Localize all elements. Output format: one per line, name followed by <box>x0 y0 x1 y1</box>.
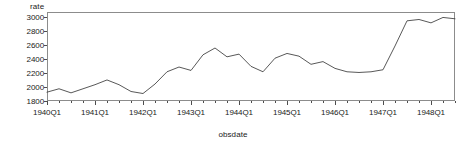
x-tick-mark-minor <box>443 101 444 103</box>
x-tick-label: 1945Q1 <box>273 108 301 117</box>
x-tick-mark-minor <box>407 101 408 103</box>
x-tick-mark-minor <box>203 101 204 103</box>
rate-time-series-chart: rate 1800 2000 2200 2400 2600 2800 3000 … <box>0 0 466 144</box>
y-tick-label: 2000 <box>27 83 44 92</box>
x-tick-mark-minor <box>311 101 312 103</box>
y-tick-label: 2200 <box>27 69 44 78</box>
x-tick-mark-major <box>95 101 96 105</box>
x-tick-mark-minor <box>371 101 372 103</box>
x-tick-label: 1943Q1 <box>177 108 205 117</box>
x-tick-label: 1947Q1 <box>369 108 397 117</box>
x-tick-mark-major <box>431 101 432 105</box>
x-tick-mark-minor <box>347 101 348 103</box>
x-tick-mark-major <box>239 101 240 105</box>
x-tick-mark-minor <box>395 101 396 103</box>
x-tick-mark-minor <box>155 101 156 103</box>
y-tick-label: 3000 <box>27 13 44 22</box>
x-tick-mark-minor <box>263 101 264 103</box>
x-tick-label: 1946Q1 <box>321 108 349 117</box>
y-axis-tick-labels: 1800 2000 2200 2400 2600 2800 3000 <box>0 0 44 144</box>
y-tick-label: 2400 <box>27 55 44 64</box>
x-axis-title: obsdate <box>0 130 466 139</box>
x-tick-label: 1940Q1 <box>33 108 61 117</box>
x-tick-mark-minor <box>251 101 252 103</box>
x-tick-label: 1942Q1 <box>129 108 157 117</box>
x-tick-mark-minor <box>107 101 108 103</box>
x-tick-mark-minor <box>275 101 276 103</box>
x-tick-mark-major <box>191 101 192 105</box>
x-tick-mark-minor <box>323 101 324 103</box>
x-tick-mark-minor <box>359 101 360 103</box>
x-tick-mark-minor <box>419 101 420 103</box>
x-tick-label: 1944Q1 <box>225 108 253 117</box>
x-tick-mark-minor <box>131 101 132 103</box>
x-tick-mark-minor <box>455 101 456 103</box>
x-tick-mark-major <box>287 101 288 105</box>
x-tick-mark-major <box>383 101 384 105</box>
x-tick-mark-minor <box>215 101 216 103</box>
x-tick-label: 1948Q1 <box>417 108 445 117</box>
x-tick-mark-minor <box>119 101 120 103</box>
x-tick-mark-minor <box>71 101 72 103</box>
y-tick-label: 1800 <box>27 97 44 106</box>
x-tick-mark-major <box>143 101 144 105</box>
x-tick-mark-minor <box>59 101 60 103</box>
x-tick-mark-minor <box>227 101 228 103</box>
y-tick-label: 2800 <box>27 27 44 36</box>
plot-area-frame <box>47 12 455 101</box>
x-tick-mark-minor <box>167 101 168 103</box>
x-tick-mark-minor <box>299 101 300 103</box>
x-tick-mark-major <box>335 101 336 105</box>
x-tick-mark-major <box>47 101 48 105</box>
x-tick-mark-minor <box>179 101 180 103</box>
x-tick-label: 1941Q1 <box>81 108 109 117</box>
y-tick-label: 2600 <box>27 41 44 50</box>
x-tick-mark-minor <box>83 101 84 103</box>
